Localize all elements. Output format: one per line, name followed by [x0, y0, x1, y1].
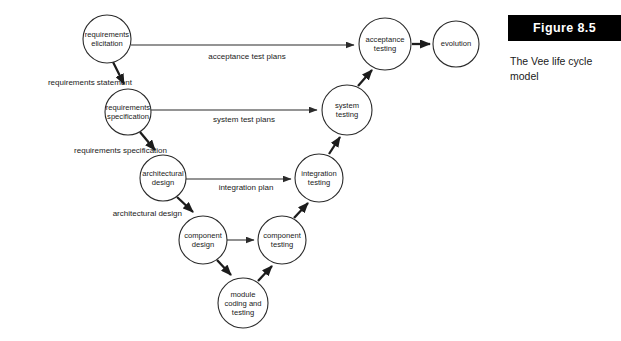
edge-label-requirements-specification: requirements specification [74, 146, 167, 155]
node-label-line: evolution [441, 39, 471, 48]
node-label-line: design [192, 240, 214, 249]
node-label-line: specification [107, 112, 149, 121]
node-component-testing[interactable]: component testing [258, 216, 306, 264]
figure-number-label: Figure 8.5 [533, 21, 596, 35]
edge-integration-testing-to-system-testing [329, 137, 340, 154]
edge-label-acceptance-test-plans: acceptance test plans [208, 52, 285, 61]
node-label-line: system [335, 101, 359, 110]
node-label-line: design [152, 178, 174, 187]
node-requirements-elicitation[interactable]: requirements elicitation [83, 15, 131, 63]
node-label-line: module [231, 290, 256, 299]
node-evolution[interactable]: evolution [433, 21, 479, 67]
edge-label-architectural-design: architectural design [113, 209, 182, 218]
edge-label-system-test-plans: system test plans [213, 115, 275, 124]
node-component-design[interactable]: component design [179, 216, 227, 264]
edge-label-integration-plan: integration plan [219, 183, 274, 192]
edge-system-testing-to-acceptance-testing [358, 70, 372, 86]
figure-number-banner: Figure 8.5 [508, 15, 621, 41]
node-integration-testing[interactable]: integration testing [295, 154, 343, 202]
node-label-line: testing [271, 240, 293, 249]
node-label-line: architectural [142, 169, 184, 178]
node-label-line: testing [232, 308, 254, 317]
node-label-line: coding and [224, 299, 261, 308]
node-label-line: testing [336, 110, 358, 119]
node-label-line: integration [301, 169, 336, 178]
node-label-line: requirements [106, 103, 151, 112]
edge-component-design-to-module-coding [217, 260, 231, 275]
node-label-line: requirements [85, 30, 130, 39]
node-system-testing[interactable]: system testing [322, 85, 372, 135]
edge-label-requirements-statement: requirements statement [48, 78, 133, 87]
node-label-line: testing [374, 44, 396, 53]
node-label-line: component [263, 231, 301, 240]
edge-module-coding-to-component-testing [258, 266, 272, 281]
node-acceptance-testing[interactable]: acceptance testing [359, 18, 411, 70]
edge-component-testing-to-integration-testing [294, 203, 308, 218]
node-architectural-design[interactable]: architectural design [140, 155, 186, 201]
figure-caption-block: Figure 8.5 The Vee life cycle model [508, 15, 621, 84]
node-requirements-specification[interactable]: requirements specification [105, 89, 151, 135]
node-module-coding-and-testing[interactable]: module coding and testing [218, 278, 268, 328]
node-label-line: acceptance [366, 35, 405, 44]
node-label-line: testing [308, 178, 330, 187]
figure-container: requirements elicitation requirements sp… [0, 0, 621, 341]
node-label-line: component [184, 231, 222, 240]
node-label-line: elicitation [91, 39, 123, 48]
figure-caption-text: The Vee life cycle model [508, 54, 621, 84]
